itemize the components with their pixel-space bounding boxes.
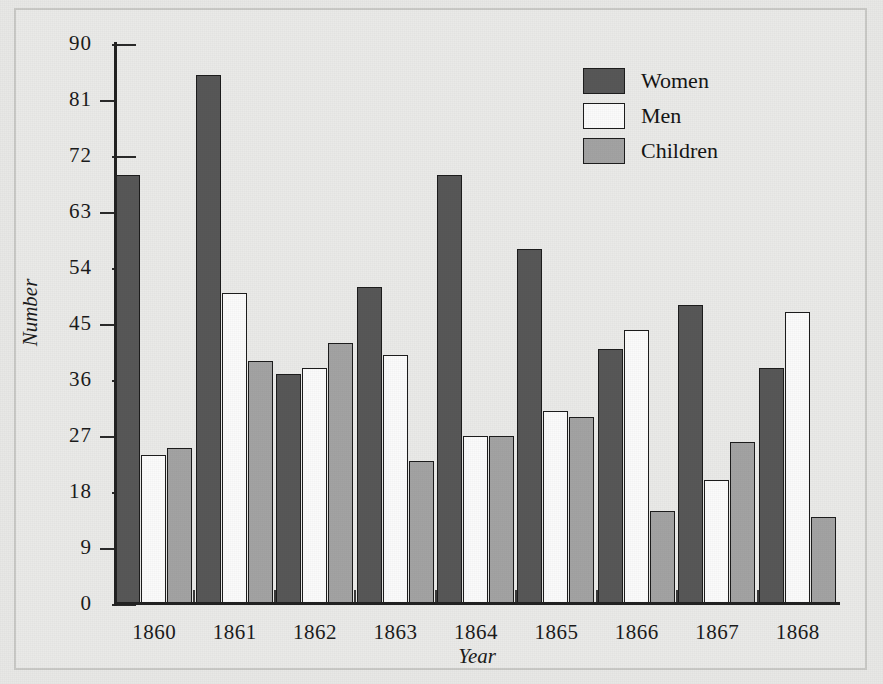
y-tick-label: 18: [69, 479, 92, 504]
bar-children-1862: [328, 343, 353, 604]
y-tick-mark: [100, 100, 114, 102]
bar-women-1865: [517, 249, 542, 604]
bar-group: 1863: [355, 44, 435, 604]
y-tick-label: 81: [69, 87, 92, 112]
legend-label: Women: [641, 68, 709, 94]
y-tick-label: 27: [69, 423, 92, 448]
y-tick-label: 9: [81, 535, 93, 560]
y-tick-label: 0: [81, 591, 93, 616]
bar-children-1861: [248, 361, 273, 604]
bar-children-1865: [569, 417, 594, 604]
chart-figure: Number Year 09182736455463728190 1860186…: [0, 0, 883, 684]
bar-women-1860: [115, 175, 140, 604]
x-tick-label: 1866: [615, 620, 659, 645]
chart-legend: WomenMenChildren: [583, 68, 718, 173]
y-tick-mark: [100, 212, 114, 214]
bar-men-1864: [463, 436, 488, 604]
legend-label: Men: [641, 103, 681, 129]
bar-men-1862: [302, 368, 327, 604]
bar-men-1865: [543, 411, 568, 604]
legend-swatch-women: [583, 68, 625, 94]
x-tick-label: 1865: [534, 620, 578, 645]
bar-women-1866: [598, 349, 623, 604]
legend-swatch-children: [583, 138, 625, 164]
bar-women-1864: [437, 175, 462, 604]
bar-groups: 186018611862186318641865186618671868: [114, 44, 838, 604]
bar-women-1861: [196, 75, 221, 604]
bar-children-1864: [489, 436, 514, 604]
y-tick-mark: [100, 436, 114, 438]
y-tick-label: 90: [69, 31, 92, 56]
y-tick-label: 36: [69, 367, 92, 392]
bar-children-1866: [650, 511, 675, 604]
legend-item-men: Men: [583, 103, 718, 129]
y-tick-label: 72: [69, 143, 92, 168]
bar-group: 1860: [114, 44, 194, 604]
bar-group: 1861: [194, 44, 274, 604]
y-axis-line: [114, 42, 117, 606]
bar-group: 1864: [436, 44, 516, 604]
bar-children-1863: [409, 461, 434, 604]
bar-men-1868: [785, 312, 810, 604]
y-tick-label: 45: [69, 311, 92, 336]
x-axis-title: Year: [114, 644, 840, 669]
legend-item-children: Children: [583, 138, 718, 164]
y-tick-mark: [100, 324, 114, 326]
bar-men-1863: [383, 355, 408, 604]
bar-women-1863: [357, 287, 382, 604]
bar-women-1868: [759, 368, 784, 604]
bar-children-1868: [811, 517, 836, 604]
y-tick-label: 54: [69, 255, 92, 280]
bar-men-1860: [141, 455, 166, 604]
x-tick-label: 1863: [374, 620, 418, 645]
bar-group: 1868: [758, 44, 838, 604]
bar-men-1866: [624, 330, 649, 604]
x-tick-label: 1861: [213, 620, 257, 645]
x-tick-label: 1868: [776, 620, 820, 645]
x-tick-label: 1862: [293, 620, 337, 645]
bar-children-1860: [167, 448, 192, 604]
x-tick-label: 1867: [695, 620, 739, 645]
legend-item-women: Women: [583, 68, 718, 94]
bar-men-1861: [222, 293, 247, 604]
x-tick-label: 1864: [454, 620, 498, 645]
y-tick-label: 63: [69, 199, 92, 224]
bar-men-1867: [704, 480, 729, 604]
y-tick-mark: [100, 548, 114, 550]
legend-label: Children: [641, 138, 718, 164]
plot-area: 09182736455463728190 1860186118621863186…: [114, 44, 838, 604]
y-axis-title: Number: [18, 279, 43, 347]
bar-group: 1862: [275, 44, 355, 604]
bar-children-1867: [730, 442, 755, 604]
legend-swatch-men: [583, 103, 625, 129]
bar-women-1862: [276, 374, 301, 604]
bar-women-1867: [678, 305, 703, 604]
x-axis-line: [114, 602, 840, 605]
x-tick-label: 1860: [132, 620, 176, 645]
